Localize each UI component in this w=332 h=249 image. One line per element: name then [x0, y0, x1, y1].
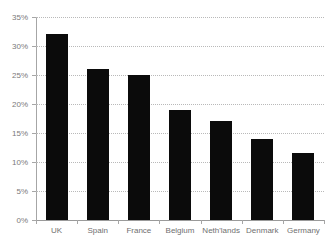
x-tick-label: Neth'lands [202, 226, 240, 235]
bar-series [36, 17, 324, 220]
bar [169, 110, 191, 220]
x-tick-mark [201, 220, 202, 224]
y-tick-label: 30% [0, 42, 28, 51]
y-tick-label: 35% [0, 13, 28, 22]
bar [87, 69, 109, 220]
plot-area: 35%30%25%20%15%10%5%0% [36, 17, 324, 220]
x-tick-label: Denmark [246, 226, 278, 235]
x-tick-mark [36, 220, 37, 224]
y-tick-label: 10% [0, 158, 28, 167]
chart-title-clipped [0, 0, 332, 5]
y-tick-label: 0% [0, 216, 28, 225]
x-tick-label: Germany [287, 226, 320, 235]
x-tick-mark [242, 220, 243, 224]
y-tick-label: 5% [0, 187, 28, 196]
bar [251, 139, 273, 220]
bar [46, 34, 68, 220]
x-tick-mark [324, 220, 325, 224]
y-tick-label: 20% [0, 100, 28, 109]
bar [210, 121, 232, 220]
x-tick-mark [118, 220, 119, 224]
x-tick-mark [159, 220, 160, 224]
bar-chart: 35%30%25%20%15%10%5%0% UKSpainFranceBelg… [0, 0, 332, 249]
bar [128, 75, 150, 220]
y-tick-label: 15% [0, 129, 28, 138]
x-tick-mark [77, 220, 78, 224]
y-tick-label: 25% [0, 71, 28, 80]
x-tick-label: UK [51, 226, 62, 235]
gridline [36, 220, 324, 221]
x-tick-label: Spain [87, 226, 107, 235]
x-tick-mark [283, 220, 284, 224]
x-tick-label: France [126, 226, 151, 235]
bar [292, 153, 314, 220]
x-tick-label: Belgium [166, 226, 195, 235]
